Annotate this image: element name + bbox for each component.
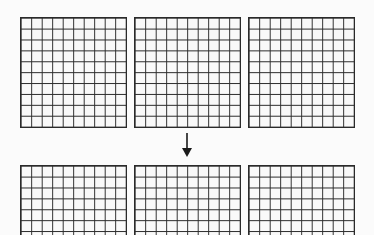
top-grid-2 xyxy=(134,17,241,128)
arrow-down-icon xyxy=(180,132,194,158)
bottom-grid-2 xyxy=(134,165,241,235)
bottom-grid-3 xyxy=(248,165,355,235)
top-grid-3 xyxy=(248,17,355,128)
top-grid-1 xyxy=(20,17,127,128)
bottom-grid-1 xyxy=(20,165,127,235)
